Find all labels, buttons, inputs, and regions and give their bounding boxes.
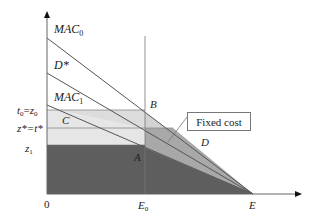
point-a-label: A [133,151,141,163]
e0-label: E0 [137,199,149,213]
mac0-label: MAC0 [53,22,83,38]
abatement-cost-diagram: MAC0 D* MAC1 t0=z0 z*=t* z1 0 E0 E A B C… [0,0,315,218]
origin-label: 0 [44,198,50,210]
point-b-label: B [150,98,157,110]
z1-label: z1 [24,142,33,156]
zstar-label: z*=t* [16,122,43,134]
dstar-label: D* [53,58,69,72]
y-axis-arrow-icon [44,11,50,18]
diagram-canvas: MAC0 D* MAC1 t0=z0 z*=t* z1 0 E0 E A B C… [0,0,315,218]
t0-z0-label: t0=z0 [17,104,38,118]
point-d-label: D [200,136,209,148]
point-c-label: C [62,114,70,126]
x-axis-arrow-icon [295,191,302,197]
fixed-cost-callout: Fixed cost [187,112,251,131]
fixed-cost-label: Fixed cost [196,116,242,128]
e-label: E [248,199,256,211]
mac1-label: MAC1 [53,90,83,106]
